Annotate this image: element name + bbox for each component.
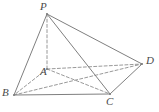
vertex-label-b: B <box>2 87 9 98</box>
vertex-label-p: P <box>40 1 47 12</box>
edge-pc <box>47 14 110 94</box>
vertex-dot-p <box>46 13 48 15</box>
vertex-label-c: C <box>106 96 113 107</box>
edge-bc <box>14 94 110 95</box>
vertex-label-a: A <box>40 66 47 77</box>
vertex-dot-d <box>141 63 143 65</box>
edge-ad <box>47 64 142 69</box>
edge-layer <box>14 14 142 95</box>
pyramid-diagram-svg <box>0 0 159 112</box>
edge-pb <box>14 14 47 95</box>
edge-pd <box>47 14 142 64</box>
geometry-figure: P A B C D <box>0 0 159 112</box>
vertex-dot-b <box>13 94 15 96</box>
edge-cd <box>110 64 142 94</box>
vertex-label-d: D <box>146 55 154 66</box>
